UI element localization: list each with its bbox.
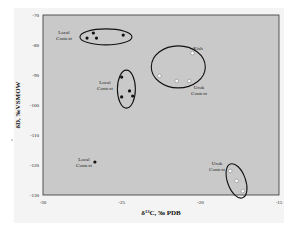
filled-point [85, 37, 88, 40]
filled-point [95, 37, 98, 40]
x-tick-label: -30 [40, 200, 47, 205]
x-tick-label: -15 [276, 200, 283, 205]
open-point [228, 169, 232, 173]
scatter-chart: -70-80-90-100-110-120-130 -30-25-20-15 L… [0, 0, 295, 234]
open-point [188, 79, 192, 83]
y-tick-label: -130 [30, 193, 40, 198]
open-point [235, 179, 239, 183]
filled-point [128, 89, 131, 92]
x-tick-label: -25 [118, 200, 125, 205]
filled-point [122, 34, 125, 37]
annotation-label: Kish [193, 46, 203, 51]
plot-area [43, 15, 279, 195]
open-point [175, 79, 179, 83]
filled-point [131, 94, 134, 97]
y-tick-label: -120 [30, 163, 40, 168]
x-tick-label: -20 [197, 200, 204, 205]
filled-point [120, 76, 123, 79]
y-tick-label: -80 [32, 43, 39, 48]
stray-mark [11, 139, 12, 140]
filled-point [93, 160, 96, 163]
open-point [241, 189, 245, 193]
open-point [191, 51, 195, 55]
y-axis-title: δD, ‰VSMOW [14, 81, 22, 128]
filled-point [92, 31, 95, 34]
filled-point [120, 95, 123, 98]
y-tick-label: -100 [30, 103, 40, 108]
y-tick-label: -70 [32, 13, 39, 18]
y-tick-label: -90 [32, 73, 39, 78]
y-tick-label: -110 [30, 133, 39, 138]
open-point [158, 74, 162, 78]
